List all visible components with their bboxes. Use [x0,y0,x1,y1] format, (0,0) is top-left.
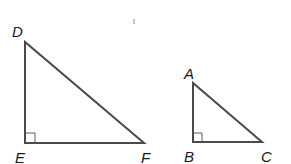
right-angle-marker-b [193,133,202,142]
vertex-label-c: C [261,148,272,164]
vertex-label-f: F [141,149,151,164]
vertex-label-d: D [12,23,23,40]
triangle-abc: A B C [183,65,272,164]
vertex-label-b: B [184,148,194,164]
diagram-canvas: D E F A B C [0,0,291,164]
vertex-label-e: E [15,149,26,164]
right-angle-marker-e [25,133,35,143]
triangle-def: D E F [12,23,151,164]
triangle-abc-outline [193,83,262,142]
triangle-def-outline [25,42,144,143]
vertex-label-a: A [183,65,194,82]
